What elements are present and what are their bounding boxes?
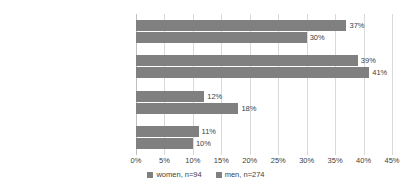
legend-label: women, n=94 [156, 170, 201, 179]
bar-women [136, 91, 204, 102]
bar-men [136, 138, 193, 149]
legend-label: men, n=274 [225, 170, 265, 179]
x-axis-tick-label: 30% [299, 156, 314, 165]
bar-value-label: 18% [241, 103, 256, 114]
bar-group: necessary37%30% [136, 20, 392, 43]
legend-item[interactable]: women, n=94 [147, 170, 201, 179]
x-axis-tick-label: 20% [242, 156, 257, 165]
bar-value-label: 30% [310, 32, 325, 43]
bar-value-label: 37% [349, 20, 364, 31]
x-axis-tick-label: 40% [356, 156, 371, 165]
bar-value-label: 10% [196, 138, 211, 149]
bar-group: fairly important12%18% [136, 91, 392, 114]
x-axis-tick-label: 5% [159, 156, 170, 165]
x-axis: 0%5%10%15%20%25%30%35%40%45% [136, 156, 392, 170]
bar-women [136, 55, 358, 66]
bar-group: very important39%41% [136, 55, 392, 78]
bar-women [136, 20, 346, 31]
x-axis-tick-label: 25% [271, 156, 286, 165]
bar-value-label: 12% [207, 91, 222, 102]
x-axis-tick-label: 45% [384, 156, 399, 165]
bar-women [136, 126, 199, 137]
bar-value-label: 41% [372, 67, 387, 78]
legend-swatch-icon [147, 172, 153, 178]
bar-value-label: 39% [361, 55, 376, 66]
chart-legend: women, n=94men, n=274 [0, 170, 412, 179]
bar-chart: necessary37%30%very important39%41%fairl… [0, 0, 412, 190]
legend-swatch-icon [216, 172, 222, 178]
x-axis-tick-label: 35% [328, 156, 343, 165]
x-axis-tick-label: 10% [185, 156, 200, 165]
bar-group: hardly important/not important11%10% [136, 126, 392, 149]
bar-men [136, 103, 238, 114]
x-axis-tick-label: 15% [214, 156, 229, 165]
bar-men [136, 67, 369, 78]
plot-area: necessary37%30%very important39%41%fairl… [136, 14, 392, 155]
legend-item[interactable]: men, n=274 [216, 170, 265, 179]
x-axis-tick-label: 0% [131, 156, 142, 165]
gridline-45 [392, 14, 393, 155]
bar-men [136, 32, 307, 43]
bar-value-label: 11% [202, 126, 216, 137]
